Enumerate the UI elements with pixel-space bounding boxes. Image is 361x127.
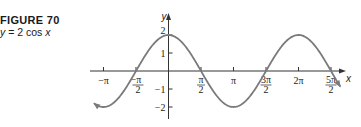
y-axis-arrow-icon [166,13,171,20]
svg-text:π: π [231,75,236,86]
y-tick-label: 2 [161,25,166,36]
y-tick-label: −1 [155,84,166,95]
x-tick-label: 2π [293,75,303,86]
x-tick-label: −π [98,75,109,86]
y-tick-label: 1 [161,48,166,59]
x-axis-label: x [345,73,352,84]
svg-text:2π: 2π [293,75,303,86]
svg-text:2: 2 [199,84,204,95]
svg-text:2: 2 [329,84,334,95]
svg-text:−π: −π [98,75,109,86]
x-tick-label: π [231,75,236,86]
y-tick-label: −2 [155,102,166,113]
svg-text:2: 2 [135,84,140,95]
curve-arrow-icon [93,103,100,110]
svg-text:2: 2 [264,84,269,95]
y-axis-label: y [161,11,168,22]
cosine-plot: xy21−1−2−π−π2π2π3π22π5π2 [0,0,361,127]
x-axis-arrow-icon [339,69,346,74]
